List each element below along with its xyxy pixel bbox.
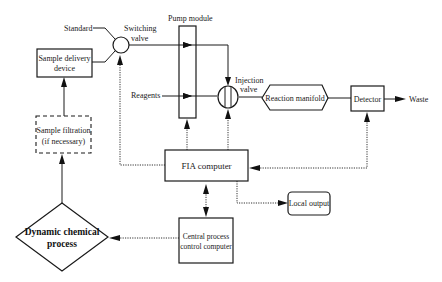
injection-valve-label-2: valve bbox=[240, 85, 258, 94]
central-computer-label-2: control computer bbox=[180, 242, 232, 251]
dynamic-chemical-process: Dynamic chemical process bbox=[16, 203, 108, 271]
sample-delivery-label-2: device bbox=[54, 64, 75, 73]
detector-fia-control bbox=[249, 112, 370, 171]
switching-to-injection-line bbox=[129, 42, 231, 86]
detector-label: Detector bbox=[354, 95, 382, 104]
switching-valve-label-1: Switching bbox=[124, 24, 156, 33]
pump-module-label: Pump module bbox=[168, 14, 213, 23]
central-to-process-control bbox=[109, 235, 179, 241]
detector-to-waste-line bbox=[384, 96, 406, 102]
filtration-to-delivery-line bbox=[61, 77, 67, 116]
sample-to-switching-line bbox=[92, 51, 115, 62]
fia-to-injection-control bbox=[225, 109, 231, 150]
injection-valve-label-1: Injection bbox=[235, 76, 263, 85]
sample-filtration-label-2: (if necessary) bbox=[42, 137, 86, 146]
fia-to-pump-control bbox=[184, 119, 190, 150]
sample-filtration-label-1: Sample filtration bbox=[37, 126, 91, 135]
switching-valve-icon bbox=[113, 37, 129, 53]
reaction-manifold: Reaction manifold bbox=[262, 85, 328, 110]
reaction-manifold-label: Reaction manifold bbox=[265, 94, 324, 103]
detector: Detector bbox=[351, 86, 384, 111]
switching-valve: Switching valve bbox=[113, 24, 156, 53]
standard-label: Standard bbox=[64, 24, 92, 33]
fia-to-switching-control bbox=[117, 55, 165, 165]
waste-label: Waste bbox=[409, 95, 429, 104]
fia-computer: FIA computer bbox=[165, 150, 248, 181]
dynamic-process-label-2: process bbox=[47, 239, 77, 249]
dynamic-process-label-1: Dynamic chemical bbox=[25, 227, 100, 237]
sample-filtration: Sample filtration (if necessary) bbox=[36, 116, 91, 153]
sample-delivery-label-1: Sample delivery bbox=[38, 54, 90, 63]
central-computer-label-1: Central process bbox=[183, 232, 230, 241]
local-output: Local output bbox=[288, 192, 330, 215]
injection-valve-icon bbox=[218, 86, 238, 108]
process-to-filtration-line bbox=[59, 154, 65, 203]
fia-to-local-output bbox=[237, 181, 288, 206]
fia-diagram: Standard Switching valve Pump module Sam… bbox=[0, 0, 442, 282]
injection-valve: Injection valve bbox=[218, 76, 263, 108]
sample-delivery-device: Sample delivery device bbox=[37, 49, 92, 77]
fia-central-link bbox=[203, 184, 209, 217]
pump-module: Pump module bbox=[168, 14, 213, 118]
reagents-label: Reagents bbox=[131, 91, 160, 100]
fia-computer-label: FIA computer bbox=[181, 161, 231, 171]
central-process-control-computer: Central process control computer bbox=[179, 218, 233, 263]
switching-valve-label-2: valve bbox=[131, 34, 149, 43]
local-output-label: Local output bbox=[289, 199, 330, 208]
standard-line bbox=[93, 28, 115, 39]
